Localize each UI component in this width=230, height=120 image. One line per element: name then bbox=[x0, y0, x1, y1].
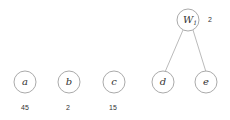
node-d: d bbox=[152, 71, 174, 93]
node-a-weight: 45 bbox=[21, 104, 29, 111]
edge-w1-d bbox=[165, 30, 183, 72]
node-e: e bbox=[195, 71, 217, 93]
huffman-tree-diagram: W1 2 a 45 b 2 c 15 d e bbox=[0, 0, 230, 120]
node-d-label: d bbox=[160, 76, 166, 87]
node-c: c bbox=[103, 71, 125, 93]
edge-w1-e bbox=[193, 30, 206, 72]
node-a-label: a bbox=[22, 76, 28, 87]
node-b-label: b bbox=[66, 76, 72, 87]
node-b-weight: 2 bbox=[66, 104, 70, 111]
node-w1: W1 bbox=[177, 9, 199, 31]
node-w1-subscript: 1 bbox=[193, 19, 197, 26]
node-a: a bbox=[14, 71, 36, 93]
node-c-weight: 15 bbox=[109, 104, 117, 111]
node-e-label: e bbox=[203, 76, 209, 87]
node-c-label: c bbox=[111, 76, 117, 87]
node-w1-weight: 2 bbox=[208, 16, 212, 23]
node-b: b bbox=[58, 71, 80, 93]
